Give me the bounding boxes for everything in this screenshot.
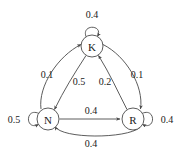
node-K-label: K <box>88 41 96 53</box>
edge-label-N-to-N: 0.5 <box>8 114 21 125</box>
edge-label-R-to-K: 0.2 <box>99 76 112 87</box>
edge-label-N-to-R: 0.4 <box>85 105 98 116</box>
edge-label-K-to-R: 0.1 <box>131 69 144 80</box>
node-R-label: R <box>129 114 137 126</box>
state-diagram-canvas: K N R 0.4 0.5 0.4 0.1 0.5 0.2 0.1 0.4 0.… <box>0 0 181 154</box>
node-N-label: N <box>44 114 52 126</box>
edge-label-R-to-R: 0.4 <box>161 114 174 125</box>
edge-label-R-to-N: 0.4 <box>85 138 98 149</box>
edge-label-K-to-N: 0.5 <box>73 76 86 87</box>
graph-svg: K N R 0.4 0.5 0.4 0.1 0.5 0.2 0.1 0.4 0.… <box>0 0 181 154</box>
edge-label-N-to-K: 0.1 <box>41 69 54 80</box>
edge-label-K-to-K: 0.4 <box>86 9 99 20</box>
